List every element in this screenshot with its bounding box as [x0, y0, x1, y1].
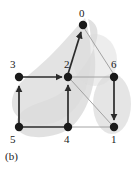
node-label-1: 1 — [111, 134, 117, 145]
figure-panel: 0 1 2 3 4 5 6 (b) — [0, 0, 139, 169]
node-0[interactable] — [79, 21, 87, 29]
node-3[interactable] — [15, 73, 23, 81]
node-label-3: 3 — [10, 59, 16, 70]
figure-caption: (b) — [5, 150, 18, 162]
node-label-4: 4 — [64, 134, 70, 145]
node-label-6: 6 — [111, 59, 117, 70]
node-1[interactable] — [110, 123, 118, 131]
node-label-0: 0 — [79, 8, 85, 19]
node-label-2: 2 — [64, 59, 70, 70]
node-5[interactable] — [15, 123, 23, 131]
node-4[interactable] — [64, 123, 72, 131]
node-2[interactable] — [64, 73, 72, 81]
node-label-5: 5 — [10, 134, 16, 145]
node-6[interactable] — [110, 73, 118, 81]
